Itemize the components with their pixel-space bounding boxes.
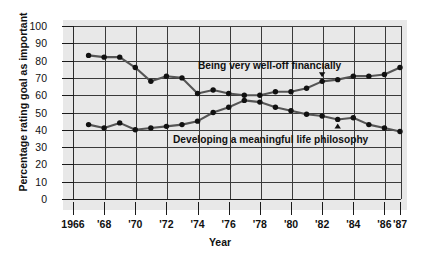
- data-point: [319, 113, 324, 118]
- series-label-philosophy: Developing a meaningful life philosophy: [173, 134, 368, 145]
- data-point: [86, 53, 91, 58]
- data-point: [195, 91, 200, 96]
- data-point: [397, 129, 402, 134]
- data-point: [164, 124, 169, 129]
- data-point: [86, 122, 91, 127]
- data-point: [257, 93, 262, 98]
- y-axis-label: 100: [11, 21, 47, 32]
- y-axis-title: Percentage rating goal as important: [17, 2, 29, 202]
- x-axis-label: '87: [375, 219, 425, 230]
- data-point: [335, 77, 340, 82]
- data-point: [366, 73, 371, 78]
- data-point: [257, 99, 262, 104]
- data-point: [226, 105, 231, 110]
- y-axis-label: 60: [11, 90, 47, 101]
- chart-figure: Being very well-off financially Developi…: [0, 0, 440, 254]
- data-point: [117, 54, 122, 59]
- data-point: [382, 125, 387, 130]
- x-axis-line: [73, 199, 400, 200]
- y-axis-label: 40: [11, 125, 47, 136]
- data-point: [101, 54, 106, 59]
- data-point: [148, 79, 153, 84]
- data-point: [133, 65, 138, 70]
- data-point: [164, 73, 169, 78]
- data-point: [226, 91, 231, 96]
- x-axis-tick: [260, 202, 261, 215]
- data-point: [319, 79, 324, 84]
- x-axis-tick: [135, 202, 136, 215]
- data-point: [304, 86, 309, 91]
- x-axis-tick: [353, 202, 354, 215]
- x-axis-tick: [229, 202, 230, 215]
- y-axis-label: 20: [11, 159, 47, 170]
- x-axis-title: Year: [0, 236, 440, 248]
- x-axis-tick: [166, 202, 167, 215]
- down-triangle-marker: [319, 72, 325, 77]
- data-point: [335, 117, 340, 122]
- data-point: [273, 89, 278, 94]
- y-axis-label: 90: [11, 38, 47, 49]
- data-point: [179, 75, 184, 80]
- data-point: [288, 108, 293, 113]
- x-axis-tick: [322, 202, 323, 215]
- y-axis-label: 10: [11, 177, 47, 188]
- y-axis-label: 0: [11, 194, 47, 205]
- data-point: [195, 118, 200, 123]
- data-point: [351, 115, 356, 120]
- data-point: [210, 87, 215, 92]
- data-point: [397, 65, 402, 70]
- data-point: [242, 93, 247, 98]
- x-axis-tick: [291, 202, 292, 215]
- data-point: [101, 125, 106, 130]
- data-point: [117, 120, 122, 125]
- series-label-wealth: Being very well-off financially: [198, 60, 341, 71]
- data-point: [242, 98, 247, 103]
- data-point: [304, 112, 309, 117]
- data-point: [148, 125, 153, 130]
- x-axis-tick: [400, 202, 401, 215]
- data-point: [133, 127, 138, 132]
- data-point: [210, 110, 215, 115]
- data-point: [351, 73, 356, 78]
- data-point: [273, 105, 278, 110]
- x-axis-tick: [73, 202, 74, 215]
- x-axis-tick: [198, 202, 199, 215]
- chart-overlay: [0, 0, 440, 254]
- y-axis-label: 70: [11, 73, 47, 84]
- data-point: [382, 72, 387, 77]
- data-point: [179, 122, 184, 127]
- x-axis-tick: [104, 202, 105, 215]
- data-point: [366, 122, 371, 127]
- up-triangle-marker: [335, 123, 341, 128]
- y-axis-label: 80: [11, 56, 47, 67]
- y-axis-label: 50: [11, 108, 47, 119]
- data-point: [288, 89, 293, 94]
- y-axis-label: 30: [11, 142, 47, 153]
- x-axis-tick: [384, 202, 385, 215]
